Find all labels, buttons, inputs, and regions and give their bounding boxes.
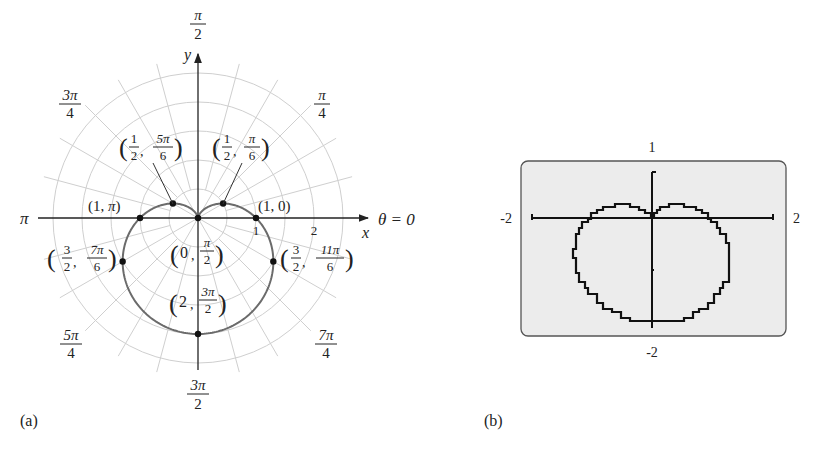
svg-text:π: π [318,87,326,103]
figure-canvas: π 2 π 4 3π 4 5π 4 3π 2 7π 4 π y x θ = 0 … [0,0,813,455]
svg-text:2: 2 [131,148,138,163]
window-ymin-label: -2 [646,345,658,360]
window-xmin-label: -2 [500,211,512,226]
svg-text:): ) [108,244,117,273]
svg-text:3π: 3π [200,284,215,299]
panel-label-b: (b) [484,412,503,430]
svg-text:6: 6 [249,148,256,163]
point-label-1-0: (1, 0) [258,198,291,215]
svg-text:5π: 5π [156,131,170,146]
svg-text:0: 0 [180,244,188,261]
svg-text:(: ( [169,289,178,318]
x-axis-label: x [361,224,369,241]
point-label-half-pi-over-6: ( 1 2 , π 6 ) [212,131,270,163]
svg-text:(: ( [47,244,56,273]
point-label-3-halves-11pi-over-6: ( 3 2 , 11π 6 ) [280,242,354,274]
point-label-3-halves-7pi-over-6: ( 3 2 , 7π 6 ) [47,242,117,274]
svg-text:6: 6 [160,148,167,163]
svg-text:(1, 0): (1, 0) [258,198,291,215]
panel-label-a: (a) [20,412,38,430]
svg-text:π: π [249,131,256,146]
svg-text:2: 2 [205,301,212,316]
svg-text:(: ( [280,244,289,273]
svg-text:,: , [190,297,194,312]
svg-text:4: 4 [318,105,326,121]
svg-text:3π: 3π [61,87,78,103]
svg-text:π: π [194,7,202,23]
radius-tick-1: 1 [253,223,260,238]
svg-text:,: , [140,144,144,159]
svg-text:3π: 3π [189,377,206,393]
svg-text:2: 2 [194,396,202,412]
svg-text:2: 2 [224,148,231,163]
svg-text:2: 2 [204,252,211,267]
angle-label-7pi-over-4: 7π 4 [315,327,337,361]
svg-text:3: 3 [64,242,71,257]
angle-label-pi-over-2: π 2 [190,7,206,42]
svg-text:2: 2 [179,293,187,310]
svg-text:11π: 11π [321,242,340,257]
svg-text:7π: 7π [90,242,104,257]
svg-text:): ) [345,244,354,273]
angle-label-pi: π [20,209,29,228]
svg-text:6: 6 [327,259,334,274]
svg-text:(: ( [212,133,221,162]
window-xmax-label: 2 [793,211,800,226]
point-label-0-pi-over-2: ( 0 , π 2 ) [170,235,224,269]
svg-text:2: 2 [194,26,202,42]
svg-text:(: ( [170,240,179,269]
point-label-1-pi: (1, π) [88,198,121,215]
svg-text:): ) [215,240,224,269]
svg-text:π: π [204,235,211,250]
svg-text:3: 3 [293,242,300,257]
svg-text:,: , [191,248,195,263]
svg-text:(1, π): (1, π) [88,198,121,215]
svg-text:1: 1 [224,131,231,146]
svg-text:(: ( [119,133,128,162]
angle-label-pi-over-4: π 4 [314,87,330,121]
svg-text:4: 4 [66,105,74,121]
theta-zero-label: θ = 0 [378,210,415,229]
angle-label-5pi-over-4: 5π 4 [60,327,82,361]
svg-text:,: , [233,144,237,159]
svg-text:4: 4 [322,345,330,361]
svg-text:4: 4 [67,345,75,361]
svg-text:5π: 5π [63,327,79,343]
svg-text:,: , [73,255,77,270]
angle-label-3pi-over-2: 3π 2 [187,377,209,412]
svg-text:): ) [174,133,183,162]
radius-tick-2: 2 [311,223,318,238]
svg-text:2: 2 [64,259,71,274]
svg-text:): ) [218,289,227,318]
svg-text:1: 1 [131,131,138,146]
y-axis-label: y [182,46,192,64]
svg-text:6: 6 [94,259,101,274]
svg-text:2: 2 [293,259,300,274]
svg-text:): ) [261,133,270,162]
window-ymax-label: 1 [649,140,656,155]
svg-text:,: , [302,255,306,270]
angle-label-3pi-over-4: 3π 4 [59,87,81,121]
calculator-screen [521,161,786,336]
svg-text:7π: 7π [318,327,334,343]
